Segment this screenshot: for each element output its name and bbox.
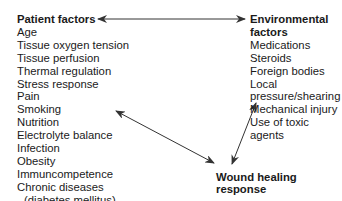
patient-factor-item: Immuncompetence <box>17 168 129 181</box>
patient-factor-item: Smoking <box>17 103 129 116</box>
wound-healing-response-title: Wound healing response <box>216 171 342 195</box>
patient-factor-item: Tissue perfusion <box>17 52 129 65</box>
patient-factors-title: Patient factors <box>17 13 129 26</box>
patient-factor-item: Nutrition <box>17 116 129 129</box>
patient-factor-item: Thermal regulation <box>17 65 129 78</box>
patient-factor-item: Obesity <box>17 155 129 168</box>
patient-factor-item: Chronic diseases <box>17 181 129 194</box>
environmental-factor-item: Medications <box>250 39 342 52</box>
patient-factor-item: Age <box>17 26 129 39</box>
patient-factors-block: Patient factors Age Tissue oxygen tensio… <box>17 13 129 201</box>
environmental-factor-item: Mechanical injury <box>250 103 342 116</box>
patient-factor-item: (diabetes mellitus) <box>17 194 129 201</box>
patient-factor-item: Pain <box>17 90 129 103</box>
patient-factor-item: Electrolyte balance <box>17 129 129 142</box>
environmental-factor-item: Local pressure/shearing <box>250 78 342 104</box>
environmental-factors-title: Environmental factors <box>250 13 342 39</box>
patient-factor-item: Stress response <box>17 78 129 91</box>
environmental-factor-item: Steroids <box>250 52 342 65</box>
environmental-factor-item: Foreign bodies <box>250 65 342 78</box>
environmental-factors-block: Environmental factors Medications Steroi… <box>250 13 342 142</box>
environmental-factor-item: Use of toxic agents <box>250 116 342 142</box>
arrow-patient-wound <box>116 111 214 163</box>
patient-factor-item: Tissue oxygen tension <box>17 39 129 52</box>
patient-factor-item: Infection <box>17 142 129 155</box>
